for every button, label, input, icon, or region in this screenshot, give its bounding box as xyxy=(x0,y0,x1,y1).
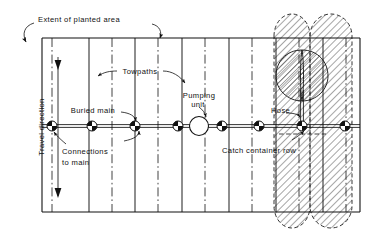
connection-marker xyxy=(87,121,97,131)
label-buried-main: Buried main xyxy=(71,106,115,115)
connection-marker xyxy=(217,121,227,131)
irrigation-layout-diagram: Extent of planted area Travel direction … xyxy=(0,0,387,242)
label-catch-container-row: Catch container row xyxy=(222,146,296,155)
wetted-band-left xyxy=(274,14,310,228)
extent-arrow-left xyxy=(24,23,34,42)
label-hose: Hose xyxy=(271,106,290,115)
connections-arrow-right xyxy=(124,131,139,141)
label-extent-of-planted-area: Extent of planted area xyxy=(38,15,120,24)
diagram-canvas: Extent of planted area Travel direction … xyxy=(0,0,387,242)
connection-marker xyxy=(297,121,307,131)
connection-marker xyxy=(130,121,140,131)
towpath-arrow-left xyxy=(98,71,117,76)
connections-arrow-left xyxy=(54,132,66,144)
connection-marker xyxy=(340,121,350,131)
connection-marker xyxy=(173,121,183,131)
label-travel-direction: Travel direction xyxy=(37,98,46,155)
label-connections-to-main-line1: Connections xyxy=(62,147,108,156)
label-pumping-unit-line2: unit xyxy=(191,100,205,109)
sprinkler-wetted-lobe xyxy=(276,50,328,101)
extent-arrow-right xyxy=(152,24,161,38)
pumping-unit-symbol xyxy=(190,117,209,136)
connection-marker xyxy=(47,121,57,131)
label-pumping-unit-line1: Pumping xyxy=(183,91,215,100)
label-connections-to-main-line2: to main xyxy=(62,158,89,167)
buried-main-arrow xyxy=(121,112,136,121)
wetted-pattern-group xyxy=(274,14,352,228)
label-towpaths: Towpaths xyxy=(123,67,158,76)
connection-marker xyxy=(254,121,264,131)
